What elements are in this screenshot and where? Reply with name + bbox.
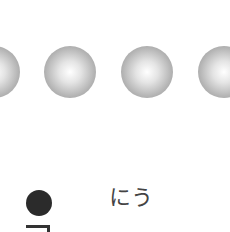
bracket-mark-icon	[26, 225, 50, 232]
filled-circle-bullet-icon	[26, 190, 52, 216]
sphere-4	[198, 46, 230, 98]
vertical-japanese-text: うに	[106, 186, 150, 232]
sphere-2	[44, 46, 96, 98]
sphere-3	[121, 46, 173, 98]
sphere-1	[0, 46, 20, 98]
